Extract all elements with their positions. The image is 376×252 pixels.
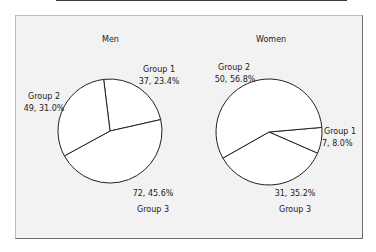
men-group2-name: Group 2 (24, 92, 64, 102)
chart-title-women: Women (256, 35, 286, 45)
men-group3-value: 72, 45.6% (128, 189, 178, 199)
men-group3-name: Group 3 (130, 205, 176, 215)
pie-men (58, 79, 162, 183)
women-group1-name: Group 1 (324, 127, 356, 137)
men-group1-name: Group 1 (136, 65, 182, 75)
chart-title-men: Men (102, 35, 119, 45)
men-group1-value: 37, 23.4% (134, 77, 184, 87)
women-group1-value: 7, 8.0% (322, 139, 353, 149)
men-group2-value: 49, 31.0% (20, 104, 68, 114)
women-group3-value: 31, 35.2% (270, 189, 320, 199)
women-group2-name: Group 2 (214, 63, 254, 73)
pie-plot-area (0, 0, 376, 252)
women-group3-name: Group 3 (272, 205, 318, 215)
women-group2-value: 50, 56.8% (210, 75, 260, 85)
pie-women (216, 79, 322, 185)
